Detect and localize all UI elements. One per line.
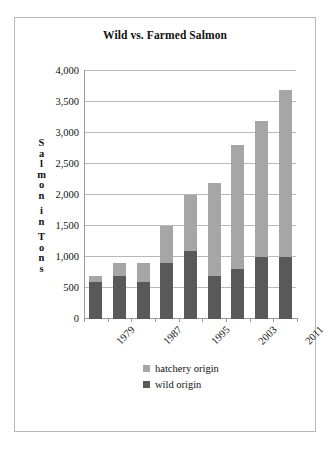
x-axis-tick-mark — [84, 318, 85, 322]
y-axis-tick-label: 500 — [39, 282, 79, 293]
y-axis-tick-label: 3,500 — [39, 96, 79, 107]
legend-item[interactable]: wild origin — [15, 376, 315, 392]
x-axis-tick-mark — [108, 318, 109, 322]
x-axis-tick-mark — [202, 318, 203, 322]
x-axis-tick-mark — [273, 318, 274, 322]
y-axis-tick-label: 0 — [39, 313, 79, 324]
legend-label: hatchery origin — [155, 363, 219, 374]
chart-frame: Wild vs. Farmed Salmon SalmoninTons 0500… — [14, 17, 316, 432]
x-axis-tick-label: 2011 — [303, 324, 325, 346]
y-axis-tick-labels: 05001,0001,5002,0002,5003,0003,5004,000 — [37, 70, 79, 319]
x-axis-tick-mark — [155, 318, 156, 322]
x-axis-tick-label: 2003 — [256, 324, 279, 347]
y-axis-tick-label: 1,000 — [39, 251, 79, 262]
y-axis-tick-label: 2,000 — [39, 189, 79, 200]
legend-swatch — [143, 381, 150, 388]
y-axis-tick-label: 3,000 — [39, 127, 79, 138]
x-axis-tick-mark — [250, 318, 251, 322]
y-axis-tick-label: 1,500 — [39, 220, 79, 231]
x-axis-tick-label: 1995 — [209, 324, 232, 347]
y-axis-tick-label: 2,500 — [39, 158, 79, 169]
x-axis-tick-label: 1987 — [161, 324, 184, 347]
x-axis-tick-mark — [297, 318, 298, 322]
legend-label: wild origin — [155, 379, 201, 390]
legend-item[interactable]: hatchery origin — [15, 360, 315, 376]
x-axis-tick-mark — [179, 318, 180, 322]
x-axis-tick-label: 1979 — [114, 324, 137, 347]
chart-legend: hatchery originwild origin — [15, 360, 315, 392]
x-axis-tick-mark — [131, 318, 132, 322]
x-axis-tick-mark — [226, 318, 227, 322]
y-axis-tick-label: 4,000 — [39, 65, 79, 76]
legend-swatch — [143, 365, 150, 372]
